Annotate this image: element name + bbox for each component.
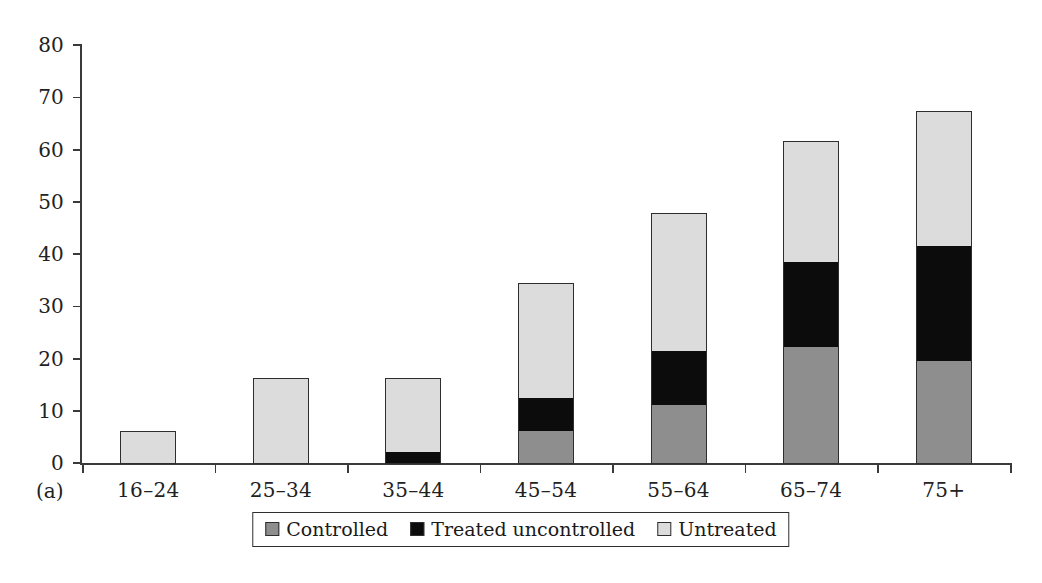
x-axis-tick — [480, 464, 482, 473]
x-axis-tick — [215, 464, 217, 473]
bar-segment-controlled — [784, 347, 838, 463]
y-axis-tick: 60 — [73, 149, 82, 151]
chart-legend: Controlled Treated uncontrolled Untreate… — [252, 512, 789, 547]
legend-label-controlled: Controlled — [286, 518, 388, 540]
y-axis-tick-label: 60 — [38, 138, 64, 162]
y-axis-tick-label: 20 — [38, 347, 64, 371]
bar-segment-untreated — [652, 214, 706, 351]
bar-45-54 — [518, 283, 574, 464]
x-axis-label: 65–74 — [780, 478, 842, 502]
bar-segment-untreated — [519, 284, 573, 398]
legend-label-treated-uncontrolled: Treated uncontrolled — [431, 518, 635, 540]
x-axis-tick — [1010, 464, 1012, 473]
bar-segment-controlled — [917, 361, 971, 463]
x-axis-tick — [612, 464, 614, 473]
y-axis-tick-label: 50 — [38, 190, 64, 214]
bar-segment-untreated — [784, 142, 838, 262]
x-axis-tick — [877, 464, 879, 473]
y-axis-tick: 0 — [73, 462, 82, 464]
x-axis-label: 16–24 — [117, 478, 179, 502]
y-axis-tick: 50 — [73, 201, 82, 203]
bar-segment-treated-uncontrolled — [386, 452, 440, 463]
x-axis-label: 75+ — [922, 478, 965, 502]
bar-75+ — [916, 111, 972, 464]
x-axis-label: 35–44 — [382, 478, 444, 502]
bar-segment-treated-uncontrolled — [917, 246, 971, 361]
chart-page: 01020304050607080 16–2425–3435–4445–5455… — [0, 0, 1042, 583]
bar-segment-treated-uncontrolled — [652, 351, 706, 405]
bar-segment-treated-uncontrolled — [519, 398, 573, 430]
panel-label: (a) — [36, 479, 64, 503]
y-axis-tick: 40 — [73, 253, 82, 255]
x-axis-tick — [745, 464, 747, 473]
y-axis-tick-label: 80 — [38, 33, 64, 57]
legend-label-untreated: Untreated — [678, 518, 777, 540]
legend-swatch-treated-uncontrolled-icon — [410, 522, 424, 536]
y-axis-tick: 20 — [73, 358, 82, 360]
bar-segment-controlled — [652, 405, 706, 463]
bar-segment-controlled — [519, 431, 573, 463]
bar-segment-untreated — [917, 112, 971, 246]
y-axis-tick-label: 10 — [38, 399, 64, 423]
y-axis-tick: 30 — [73, 306, 82, 308]
y-axis-tick-label: 70 — [38, 85, 64, 109]
legend-item-untreated: Untreated — [657, 518, 777, 540]
bar-55-64 — [651, 213, 707, 464]
y-axis-tick-label: 30 — [38, 294, 64, 318]
bar-segment-treated-uncontrolled — [784, 262, 838, 347]
legend-item-treated-uncontrolled: Treated uncontrolled — [410, 518, 635, 540]
y-axis-tick: 70 — [73, 97, 82, 99]
bar-25-34 — [253, 378, 309, 464]
legend-swatch-controlled-icon — [265, 522, 279, 536]
bar-16-24 — [120, 431, 176, 464]
x-axis-label: 55–64 — [647, 478, 709, 502]
bar-segment-untreated — [386, 379, 440, 452]
y-axis-tick: 10 — [73, 410, 82, 412]
bar-65-74 — [783, 141, 839, 464]
x-axis-tick — [82, 464, 84, 473]
x-axis-tick — [347, 464, 349, 473]
bar-35-44 — [385, 378, 441, 464]
y-axis-tick-label: 0 — [51, 451, 64, 475]
y-axis-tick-label: 40 — [38, 242, 64, 266]
y-axis-tick: 80 — [73, 44, 82, 46]
legend-swatch-untreated-icon — [657, 522, 671, 536]
legend-item-controlled: Controlled — [265, 518, 388, 540]
bar-segment-untreated — [121, 432, 175, 463]
plot-area: 01020304050607080 — [82, 46, 1010, 464]
bar-segment-untreated — [254, 379, 308, 463]
x-axis-label: 25–34 — [250, 478, 312, 502]
x-axis-label: 45–54 — [515, 478, 577, 502]
